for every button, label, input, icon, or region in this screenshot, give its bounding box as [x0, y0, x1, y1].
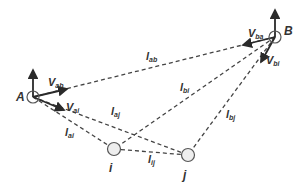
edge-label-l-bj: lbj [226, 108, 236, 122]
edge-label-l-aj: laj [111, 105, 121, 119]
diagram-canvas: A B i j Vab Vai Vba Vbi lab laj lai lbi … [0, 0, 306, 188]
edge-label-l-ij: lij [148, 153, 156, 167]
edge-label-l-bi: lbi [180, 81, 190, 94]
node-j [182, 149, 195, 162]
node-label-a: A [15, 90, 25, 104]
node-label-i: i [109, 161, 113, 175]
vector-label-v-bi: Vbi [266, 54, 281, 67]
edge-a-b [33, 37, 275, 97]
node-i [108, 143, 121, 156]
edge-label-l-ab: lab [146, 50, 158, 63]
node-label-j: j [181, 168, 187, 182]
vector-v-ai-arrow-icon [33, 97, 64, 110]
edge-b-j [188, 37, 275, 155]
node-label-b: B [284, 24, 293, 38]
edge-label-l-ai: lai [65, 126, 75, 139]
vector-label-v-ai: Vai [66, 101, 80, 114]
edge-b-i [114, 37, 275, 149]
vector-label-v-ab: Vab [48, 76, 64, 89]
vector-label-v-ba: Vba [248, 27, 264, 40]
